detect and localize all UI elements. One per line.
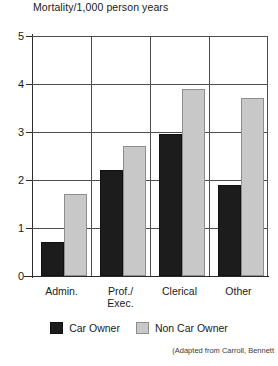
bar-car-owner-prof-exec <box>100 170 123 276</box>
y-tick-label-5: 5 <box>8 31 24 42</box>
bar-car-owner-admin <box>41 242 64 276</box>
y-tick-label-1: 1 <box>8 223 24 234</box>
chart-legend: Car Owner Non Car Owner <box>0 322 278 334</box>
y-tick-label-2: 2 <box>8 175 24 186</box>
legend-item-non-car-owner: Non Car Owner <box>136 322 228 334</box>
group-separator-3 <box>209 36 210 276</box>
legend-label-car-owner: Car Owner <box>69 322 120 334</box>
legend-swatch-car-owner <box>50 322 63 334</box>
legend-item-car-owner: Car Owner <box>50 322 120 334</box>
x-category-label-admin-line1: Admin. <box>32 285 91 297</box>
x-category-label-clerical: Clerical <box>150 285 209 297</box>
x-category-label-other: Other <box>209 285 268 297</box>
group-separator-4 <box>267 36 268 276</box>
y-tick-label-0: 0 <box>8 271 24 282</box>
source-note: (Adapted from Carroll, Bennett <box>84 346 274 355</box>
mortality-bar-chart: Mortality/1,000 person years 5 4 3 2 1 0 <box>0 0 278 366</box>
x-category-label-admin: Admin. <box>32 285 91 297</box>
x-category-label-prof-exec-line1: Prof./ <box>91 285 150 297</box>
group-separator-2 <box>150 36 151 276</box>
bar-non-car-owner-other <box>241 98 264 276</box>
y-tick-label-3: 3 <box>8 127 24 138</box>
y-tick-label-4: 4 <box>8 79 24 90</box>
legend-label-non-car-owner: Non Car Owner <box>155 322 228 334</box>
plot-area <box>32 36 268 276</box>
bar-car-owner-other <box>218 185 241 276</box>
x-category-label-other-line1: Other <box>209 285 268 297</box>
chart-axis-title: Mortality/1,000 person years <box>33 1 168 13</box>
bar-non-car-owner-clerical <box>182 89 205 276</box>
group-separator-1 <box>91 36 92 276</box>
bar-non-car-owner-admin <box>64 194 87 276</box>
x-category-label-clerical-line1: Clerical <box>150 285 209 297</box>
x-category-label-prof-exec-line2: Exec. <box>91 297 150 309</box>
x-axis-line <box>24 276 269 277</box>
legend-swatch-non-car-owner <box>136 322 149 334</box>
bar-non-car-owner-prof-exec <box>123 146 146 276</box>
bar-car-owner-clerical <box>159 134 182 276</box>
x-category-label-prof-exec: Prof./ Exec. <box>91 285 150 309</box>
source-note-line1: (Adapted from Carroll, Bennett <box>84 346 274 355</box>
